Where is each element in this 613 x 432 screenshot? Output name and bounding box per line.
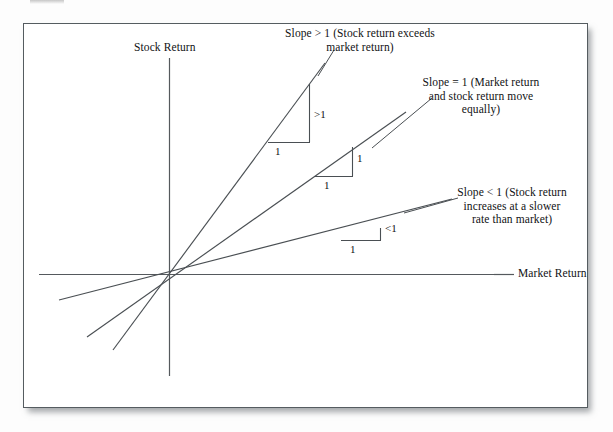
- annotation-slope-equal-one: Slope = 1 (Market return and stock retur…: [414, 76, 548, 117]
- triangle-shallow-run-label: 1: [350, 243, 356, 255]
- line-slope-greater-than-one: [113, 63, 325, 350]
- triangle-unit-rise-label: 1: [357, 152, 363, 164]
- slope-lines-group: [59, 63, 452, 350]
- leader-lines-group: [318, 50, 458, 213]
- triangle-steep-rise-label: >1: [314, 108, 326, 120]
- line-slope-less-than-one: [59, 199, 452, 300]
- x-axis-label: Market Return: [518, 267, 587, 281]
- triangle-unit-run-label: 1: [324, 179, 330, 191]
- y-axis-label: Stock Return: [134, 41, 196, 55]
- triangle-shallow-rise-label: <1: [385, 222, 397, 234]
- annotation-slope-greater-than-one: Slope > 1 (Stock return exceeds market r…: [276, 27, 444, 54]
- triangle-steep-run-label: 1: [275, 145, 281, 157]
- triangle-shallow: [341, 228, 381, 241]
- annotation-slope-less-than-one: Slope < 1 (Stock return increases at a s…: [447, 186, 577, 227]
- line-slope-equal-one: [87, 112, 406, 337]
